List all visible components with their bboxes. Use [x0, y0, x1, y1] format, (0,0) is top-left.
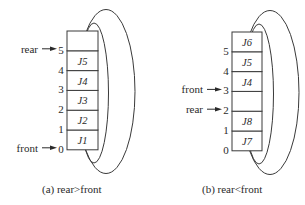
- pointer-front: front: [17, 142, 57, 154]
- pointer-label: rear: [186, 103, 203, 115]
- queue-cell: J5: [232, 52, 262, 72]
- arrow-head-icon: [215, 87, 222, 91]
- slot-index-label: 2: [58, 103, 64, 115]
- slot-index-label: 3: [58, 83, 64, 95]
- queue-cell: J2: [67, 110, 98, 130]
- slot-index-label: 1: [223, 124, 229, 136]
- slot-index-label: 0: [58, 143, 64, 155]
- queue-cell-label: J8: [242, 116, 253, 127]
- slot-index-label: 3: [223, 84, 229, 96]
- pointer-label: front: [17, 142, 38, 154]
- queue-cell-label: J5: [78, 56, 88, 67]
- queue-cell-label: J4: [78, 76, 89, 87]
- queue-cell: J6: [232, 32, 262, 52]
- queue-cell-label: J4: [242, 77, 253, 88]
- queue-cell: J5: [67, 51, 98, 71]
- slot-index-label: 4: [58, 64, 64, 76]
- pointer-rear: rear: [21, 43, 57, 55]
- panel-rear-less-than-front: J70J812J43J54J65frontrear(b) rear<front: [182, 11, 299, 197]
- panel-caption: (a) rear>front: [42, 183, 102, 196]
- queue-cell: J4: [67, 71, 98, 91]
- queue-cell: J1: [67, 130, 98, 150]
- slot-index-label: 0: [223, 144, 229, 156]
- slot-index-label: 1: [58, 123, 64, 135]
- pointer-front: front: [182, 83, 222, 95]
- slot-index-label: 2: [223, 104, 229, 116]
- queue-cell: J4: [232, 72, 262, 92]
- queue-cell: [67, 31, 98, 51]
- slot-index-label: 5: [58, 44, 64, 56]
- queue-cell-label: J5: [242, 57, 252, 68]
- queue-cell-label: J3: [78, 95, 88, 106]
- slot-index-label: 4: [223, 65, 229, 77]
- arrow-head-icon: [50, 47, 57, 51]
- queue-cell-label: J2: [78, 115, 89, 126]
- queue-cell: J7: [232, 131, 262, 151]
- queue-cell: J8: [232, 111, 262, 131]
- slot-index-label: 5: [223, 45, 229, 57]
- pointer-rear: rear: [186, 103, 222, 115]
- pointer-label: rear: [21, 43, 38, 55]
- queue-cell-label: J1: [78, 135, 88, 146]
- queue-cell: [232, 91, 262, 111]
- panel-rear-greater-than-front: J10J21J32J43J545rearfront(a) rear>front: [17, 10, 135, 197]
- circular-queue-diagram: J10J21J32J43J545rearfront(a) rear>front …: [0, 0, 305, 205]
- queue-cell: J3: [67, 90, 98, 110]
- queue-cell-label: J7: [242, 136, 253, 147]
- arrow-head-icon: [50, 146, 57, 150]
- panel-caption: (b) rear<front: [202, 183, 262, 196]
- queue-cell-label: J6: [242, 37, 253, 48]
- queue-cell-box: [232, 91, 262, 111]
- queue-cell-box: [67, 31, 98, 51]
- arrow-head-icon: [215, 107, 222, 111]
- pointer-label: front: [182, 83, 203, 95]
